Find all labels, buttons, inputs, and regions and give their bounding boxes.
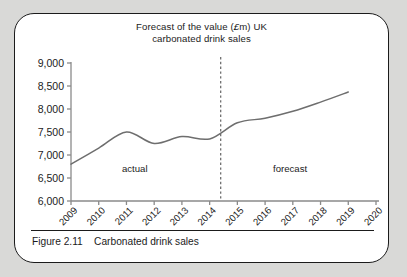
x-tick-label: 2014 — [195, 204, 218, 227]
annotation-forecast: forecast — [273, 163, 307, 174]
x-tick-label: 2011 — [112, 205, 134, 227]
y-tick-label: 6,500 — [38, 172, 64, 184]
x-tick-label: 2010 — [84, 205, 107, 228]
annotation-actual: actual — [122, 163, 148, 174]
x-tick-label: 2016 — [251, 205, 274, 228]
x-axis: 2009201020112012201320142015201620172018… — [57, 201, 385, 228]
y-tick-label: 8,000 — [38, 103, 64, 115]
y-tick-label: 9,000 — [38, 57, 64, 69]
y-tick-label: 7,500 — [38, 126, 64, 138]
x-tick-label: 2017 — [278, 205, 301, 228]
x-tick-label: 2013 — [167, 205, 190, 228]
y-axis: 9,0008,5008,0007,5007,0006,5006,000 — [38, 57, 71, 207]
caption-divider-rule — [31, 230, 374, 231]
figure-caption: Figure 2.11 Carbonated drink sales — [32, 236, 199, 247]
data-line — [71, 92, 348, 164]
x-tick-label: 2019 — [334, 205, 357, 228]
y-tick-label: 6,000 — [38, 195, 64, 207]
chart-annotations: actualforecast — [122, 163, 307, 174]
x-tick-label: 2012 — [140, 205, 163, 228]
y-tick-label: 7,000 — [38, 149, 64, 161]
plot-area: 9,0008,5008,0007,5007,0006,5006,000 2009… — [15, 14, 390, 264]
x-tick-label: 2009 — [57, 205, 80, 228]
x-tick-label: 2015 — [223, 205, 246, 228]
figure-card: Forecast of the value (£m) UK carbonated… — [14, 13, 389, 263]
series-line — [71, 92, 348, 164]
y-tick-label: 8,500 — [38, 80, 64, 92]
line-chart-svg: 9,0008,5008,0007,5007,0006,5006,000 2009… — [15, 14, 390, 264]
x-tick-label: 2018 — [306, 205, 329, 228]
x-tick-label: 2020 — [362, 205, 385, 228]
